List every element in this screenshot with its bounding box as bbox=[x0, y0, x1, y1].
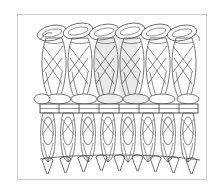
illustration-page bbox=[0, 0, 223, 196]
post-base-loops bbox=[34, 94, 199, 104]
stitch-diagram bbox=[0, 0, 223, 196]
horizontal-chain-band bbox=[40, 104, 198, 113]
top-chain-loop-row bbox=[36, 21, 199, 44]
